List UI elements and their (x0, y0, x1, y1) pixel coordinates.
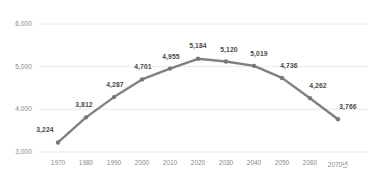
x-axis-tick-label: 2070년 (321, 159, 355, 169)
chart-plot-area (0, 0, 374, 182)
data-point-label: 4,262 (301, 82, 335, 89)
data-point-label: 4,955 (154, 53, 188, 60)
y-axis-tick-label: 3,000 (0, 148, 32, 155)
data-point-marker (56, 140, 60, 144)
data-point-marker (224, 59, 228, 63)
data-point-label: 5,184 (181, 42, 215, 49)
data-point-marker (196, 57, 200, 61)
data-point-label: 3,224 (28, 126, 62, 133)
data-point-label: 3,766 (331, 103, 365, 110)
data-point-marker (168, 66, 172, 70)
data-point-label: 4,701 (126, 63, 160, 70)
data-point-label: 4,287 (98, 81, 132, 88)
data-point-marker (308, 96, 312, 100)
y-axis-tick-label: 6,000 (0, 20, 32, 27)
data-point-marker (252, 64, 256, 68)
data-point-marker (280, 76, 284, 80)
data-point-marker (336, 117, 340, 121)
data-point-label: 3,812 (67, 101, 101, 108)
data-point-label: 4,736 (272, 62, 306, 69)
line-chart: 3,0004,0005,0006,000 1970198019902000201… (0, 0, 374, 182)
data-point-label: 5,120 (212, 46, 246, 53)
data-point-label: 5,019 (242, 50, 276, 57)
data-point-marker (140, 77, 144, 81)
data-point-marker (112, 95, 116, 99)
y-axis-tick-label: 5,000 (0, 63, 32, 70)
y-axis-tick-label: 4,000 (0, 105, 32, 112)
data-point-marker (84, 115, 88, 119)
